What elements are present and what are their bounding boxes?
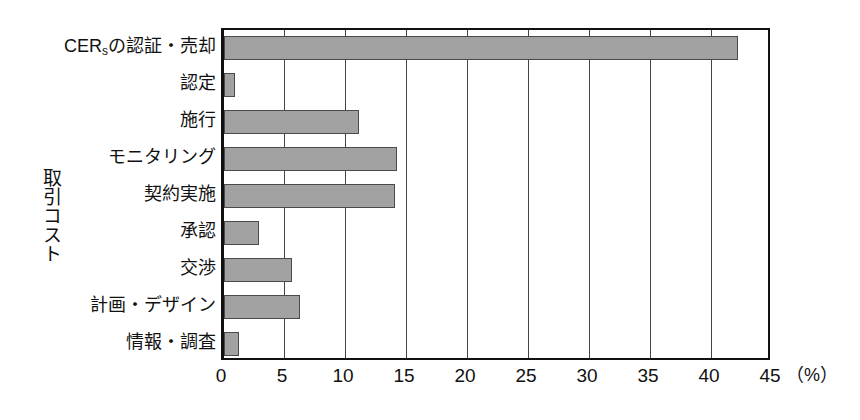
category-label: 承認 xyxy=(40,222,216,240)
gridline xyxy=(467,30,468,358)
plot-area xyxy=(221,28,770,360)
x-tick-label: 0 xyxy=(216,366,227,385)
x-tick-label: 30 xyxy=(576,366,597,385)
bar xyxy=(224,295,300,319)
bar xyxy=(224,36,738,60)
gridline xyxy=(711,30,712,358)
x-tick-label: 5 xyxy=(277,366,288,385)
category-label: 契約実施 xyxy=(40,185,216,203)
bar xyxy=(224,147,397,171)
category-label: モニタリング xyxy=(40,148,216,166)
x-axis-unit-label: （%） xyxy=(786,366,838,384)
bar xyxy=(224,110,359,134)
x-tick-label: 45 xyxy=(759,366,780,385)
category-label: 交渉 xyxy=(40,259,216,277)
bar xyxy=(224,73,235,97)
x-tick-label: 15 xyxy=(393,366,414,385)
x-tick-label: 20 xyxy=(454,366,475,385)
category-label: 施行 xyxy=(40,111,216,129)
gridline xyxy=(406,30,407,358)
bar xyxy=(224,332,239,356)
x-tick-label: 25 xyxy=(515,366,536,385)
gridline xyxy=(650,30,651,358)
category-label: 認定 xyxy=(40,74,216,92)
bar xyxy=(224,221,259,245)
bar xyxy=(224,184,395,208)
x-tick-label: 40 xyxy=(698,366,719,385)
gridline xyxy=(528,30,529,358)
category-label-column: CERsの認証・売却認定施行モニタリング契約実施承認交渉計画・デザイン情報・調査 xyxy=(40,28,216,360)
x-axis-tick-labels: 051015202530354045 xyxy=(0,366,860,398)
category-label: CERsの認証・売却 xyxy=(40,37,216,55)
bar xyxy=(224,258,292,282)
bar-chart: 取引コスト CERsの認証・売却認定施行モニタリング契約実施承認交渉計画・デザイ… xyxy=(0,0,860,420)
x-tick-label: 35 xyxy=(637,366,658,385)
category-label: 計画・デザイン xyxy=(40,296,216,314)
gridline xyxy=(589,30,590,358)
category-label: 情報・調査 xyxy=(40,333,216,351)
x-tick-label: 10 xyxy=(332,366,353,385)
